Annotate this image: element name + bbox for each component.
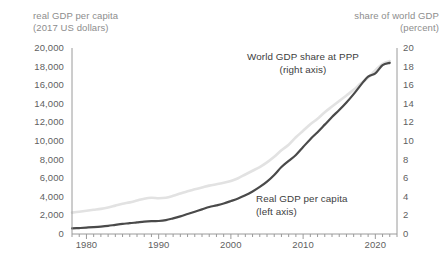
left-axis-tick-label: 8,000 — [16, 155, 64, 165]
plot-area — [0, 0, 447, 267]
left-axis-tick-label: 14,000 — [16, 99, 64, 109]
left-axis-tick-label: 6,000 — [16, 173, 64, 183]
x-axis-tick-label: 1980 — [61, 240, 111, 250]
left-axis-tick-label: 0 — [16, 229, 64, 239]
right-axis-tick-label: 8 — [403, 155, 425, 165]
annotation-real-gdp-per-capita-line1: Real GDP per capita — [256, 193, 348, 204]
right-axis-tick-label: 0 — [403, 229, 425, 239]
axis-lines-and-ticks — [72, 48, 397, 239]
left-axis-tick-label: 18,000 — [16, 62, 64, 72]
right-axis-tick-label: 4 — [403, 192, 425, 202]
annotation-real-gdp-per-capita-line2: (left axis) — [256, 206, 297, 217]
right-axis-tick-label: 18 — [403, 62, 425, 72]
left-axis-tick-label: 4,000 — [16, 192, 64, 202]
right-axis-tick-label: 20 — [403, 43, 425, 53]
series-world-gdp-share-line — [72, 61, 390, 213]
right-axis-tick-label: 10 — [403, 136, 425, 146]
gdp-dual-axis-chart: real GDP per capita (2017 US dollars) sh… — [0, 0, 447, 267]
right-axis-tick-label: 6 — [403, 173, 425, 183]
left-axis-tick-label: 20,000 — [16, 43, 64, 53]
annotation-world-gdp-share-line1: World GDP share at PPP — [247, 51, 359, 62]
left-axis-tick-label: 2,000 — [16, 210, 64, 220]
right-axis-tick-label: 12 — [403, 117, 425, 127]
annotation-world-gdp-share: World GDP share at PPP(right axis) — [228, 51, 378, 76]
left-axis-tick-label: 10,000 — [16, 136, 64, 146]
x-axis-tick-label: 2010 — [278, 240, 328, 250]
annotation-real-gdp-per-capita: Real GDP per capita(left axis) — [256, 193, 348, 218]
left-axis-tick-label: 16,000 — [16, 80, 64, 90]
x-axis-tick-label: 1990 — [134, 240, 184, 250]
right-axis-tick-label: 16 — [403, 80, 425, 90]
annotation-world-gdp-share-line2: (right axis) — [280, 64, 327, 75]
x-axis-tick-label: 2020 — [350, 240, 400, 250]
x-axis-tick-label: 2000 — [206, 240, 256, 250]
left-axis-tick-label: 12,000 — [16, 117, 64, 127]
right-axis-tick-label: 14 — [403, 99, 425, 109]
right-axis-tick-label: 2 — [403, 210, 425, 220]
